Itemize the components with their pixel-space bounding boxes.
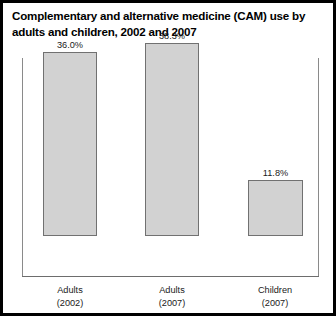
plot-right-rule (318, 58, 319, 276)
category-label-line-2: (2007) (159, 298, 186, 308)
category-label-adults-2007: Adults (2007) (130, 284, 214, 309)
chart-figure: Complementary and alternative medicine (… (0, 0, 336, 316)
category-label-line-1: Adults (57, 285, 83, 295)
category-label-children-2007: Children (2007) (233, 284, 317, 309)
category-label-line-2: (2002) (57, 298, 84, 308)
y-axis-line (22, 58, 23, 276)
bar-value-label-adults-2007: 38.3% (145, 31, 199, 41)
category-label-adults-2002: Adults (2002) (28, 284, 112, 309)
bar-children-2007[interactable] (248, 180, 303, 236)
bar-value-label-adults-2002: 36.0% (43, 40, 97, 50)
category-label-line-1: Children (258, 285, 292, 295)
bar-adults-2007[interactable] (145, 43, 199, 236)
category-label-line-2: (2007) (262, 298, 289, 308)
bar-value-label-children-2007: 11.8% (248, 168, 303, 178)
bar-adults-2002[interactable] (43, 52, 97, 236)
plot-area: 36.0% Adults (2002) 38.3% Adults (2007) … (22, 58, 319, 279)
x-axis-baseline (22, 276, 319, 277)
category-label-line-1: Adults (159, 285, 185, 295)
